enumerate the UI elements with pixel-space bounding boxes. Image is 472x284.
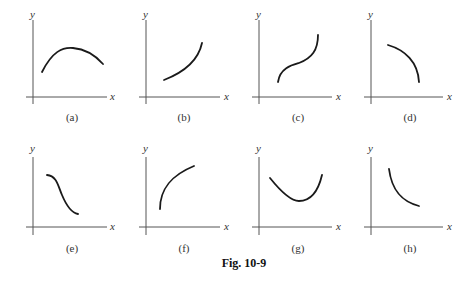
x-axis-label: x: [223, 90, 229, 102]
curve-d: [388, 45, 419, 82]
x-axis-label: x: [335, 220, 341, 232]
y-axis-label: y: [29, 8, 35, 20]
panel-d: y x (d): [364, 8, 452, 124]
panel-label-b: (b): [178, 111, 191, 124]
curve-h: [389, 169, 419, 206]
panel-e: y x (e): [26, 142, 115, 255]
panel-label-a: (a): [66, 111, 79, 124]
x-axis-label: x: [446, 220, 452, 232]
panel-b: y x (b): [139, 8, 229, 124]
curve-b: [164, 43, 202, 80]
panel-label-g: (g): [292, 242, 305, 255]
y-axis-label: y: [367, 142, 373, 154]
x-axis-label: x: [446, 90, 452, 102]
curve-a: [42, 48, 103, 72]
curve-e: [47, 175, 78, 214]
y-axis-label: y: [255, 8, 261, 20]
y-axis-label: y: [29, 142, 35, 154]
curve-c: [278, 35, 318, 82]
x-axis-label: x: [109, 90, 115, 102]
curve-f: [160, 166, 194, 209]
figure-caption: Fig. 10-9: [222, 256, 267, 270]
panel-h: y x (h): [364, 142, 452, 255]
panel-label-c: (c): [292, 111, 305, 124]
y-axis-label: y: [142, 142, 148, 154]
y-axis-label: y: [142, 8, 148, 20]
panel-g: y x (g): [252, 142, 341, 255]
figure-10-9: y x (a) y x (b) y x (c) y x (d) y x (e): [0, 0, 472, 284]
panel-a: y x (a): [26, 8, 115, 124]
curve-g: [270, 175, 322, 201]
panel-f: y x (f): [139, 142, 229, 255]
x-axis-label: x: [223, 220, 229, 232]
y-axis-label: y: [367, 8, 373, 20]
y-axis-label: y: [255, 142, 261, 154]
panel-label-e: (e): [66, 242, 79, 255]
panel-label-f: (f): [179, 242, 190, 255]
x-axis-label: x: [335, 90, 341, 102]
panel-c: y x (c): [252, 8, 341, 124]
panel-label-h: (h): [404, 242, 417, 255]
panel-label-d: (d): [404, 111, 417, 124]
x-axis-label: x: [109, 220, 115, 232]
